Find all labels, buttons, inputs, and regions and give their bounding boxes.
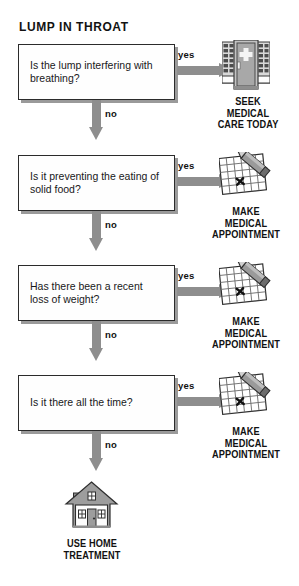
decision-question-1: Is the lump interfering with breathing? <box>19 59 174 86</box>
decision-question-3: Has there been a recent loss of weight? <box>19 280 174 307</box>
outcome-line-1: MAKE <box>198 316 294 328</box>
outcome-label-4: MAKE MEDICAL APPOINTMENT <box>198 426 294 461</box>
outcome-line-2: MEDICAL <box>202 108 294 120</box>
outcome-line-2: MEDICAL <box>198 328 294 340</box>
arrow-shaft <box>92 211 101 240</box>
arrow-head <box>89 238 103 251</box>
arrow-shaft <box>92 100 101 129</box>
arrow-shaft <box>177 66 221 75</box>
arrow-shaft <box>177 177 221 186</box>
outcome-line-1: MAKE <box>198 426 294 438</box>
arrow-head <box>89 348 103 361</box>
outcome-line-3: CARE TODAY <box>202 119 294 131</box>
hospital-door-icon <box>222 40 270 92</box>
outcome-line-3: APPOINTMENT <box>198 449 294 461</box>
outcome-line-2: MEDICAL <box>198 438 294 450</box>
no-arrow-4 <box>89 431 103 471</box>
final-outcome-line-2: TREATMENT <box>46 550 138 562</box>
house-icon <box>64 481 119 534</box>
no-label-2: no <box>105 219 117 230</box>
calendar-pencil-icon <box>219 262 277 312</box>
no-label-4: no <box>105 439 117 450</box>
yes-label-1: yes <box>178 49 194 60</box>
yes-label-2: yes <box>178 160 194 171</box>
arrow-shaft <box>92 321 101 350</box>
outcome-label-3: MAKE MEDICAL APPOINTMENT <box>198 316 294 351</box>
outcome-line-1: MAKE <box>198 206 294 218</box>
arrow-head <box>89 127 103 140</box>
no-arrow-1 <box>89 100 103 140</box>
outcome-label-2: MAKE MEDICAL APPOINTMENT <box>198 206 294 241</box>
calendar-pencil-icon <box>219 372 277 422</box>
yes-label-4: yes <box>178 380 194 391</box>
outcome-label-1: SEEK MEDICAL CARE TODAY <box>202 96 294 131</box>
no-label-3: no <box>105 329 117 340</box>
outcome-line-3: APPOINTMENT <box>198 229 294 241</box>
arrow-shaft <box>92 431 101 460</box>
no-arrow-2 <box>89 211 103 251</box>
outcome-line-1: SEEK <box>202 96 294 108</box>
decision-box-3[interactable]: Has there been a recent loss of weight? <box>18 265 175 321</box>
no-arrow-3 <box>89 321 103 361</box>
flowchart-canvas: LUMP IN THROAT Is the lump interfering w… <box>0 0 299 586</box>
final-outcome-line-1: USE HOME <box>46 538 138 550</box>
no-label-1: no <box>105 108 117 119</box>
arrow-shaft <box>177 397 221 406</box>
decision-question-2: Is it preventing the eating of solid foo… <box>19 170 174 197</box>
outcome-line-2: MEDICAL <box>198 218 294 230</box>
decision-box-2[interactable]: Is it preventing the eating of solid foo… <box>18 155 175 211</box>
decision-box-4[interactable]: Is it there all the time? <box>18 375 175 431</box>
page-title: LUMP IN THROAT <box>19 20 129 34</box>
decision-box-1[interactable]: Is the lump interfering with breathing? <box>18 44 175 100</box>
yes-label-3: yes <box>178 270 194 281</box>
arrow-shaft <box>177 287 221 296</box>
calendar-pencil-icon <box>219 152 277 202</box>
outcome-line-3: APPOINTMENT <box>198 339 294 351</box>
arrow-head <box>89 458 103 471</box>
final-outcome-label: USE HOME TREATMENT <box>46 538 138 561</box>
decision-question-4: Is it there all the time? <box>19 396 144 410</box>
